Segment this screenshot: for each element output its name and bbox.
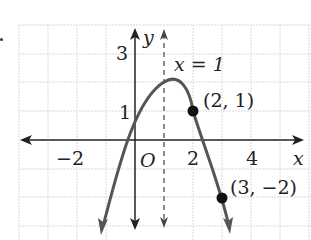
axis-of-symmetry: [160, 29, 168, 228]
origin-label: O: [140, 151, 156, 170]
point-2-1: [188, 106, 199, 117]
x-axis: [20, 135, 304, 145]
parabola-curve: [98, 60, 233, 235]
graph-plot: [0, 0, 311, 240]
x-axis-label: x: [293, 149, 304, 168]
point-label-3-neg2: (3, −2): [230, 178, 297, 197]
point-3-neg2: [217, 193, 228, 204]
x-tick-neg2: −2: [56, 149, 84, 168]
x-tick-4: 4: [246, 149, 258, 168]
y-tick-3: 3: [116, 44, 128, 63]
grid: [19, 25, 311, 240]
point-label-2-1: (2, 1): [203, 91, 254, 110]
y-tick-1: 1: [119, 103, 131, 122]
symmetry-label: x = 1: [174, 55, 225, 74]
x-tick-2: 2: [187, 149, 199, 168]
y-axis-label: y: [143, 28, 154, 47]
